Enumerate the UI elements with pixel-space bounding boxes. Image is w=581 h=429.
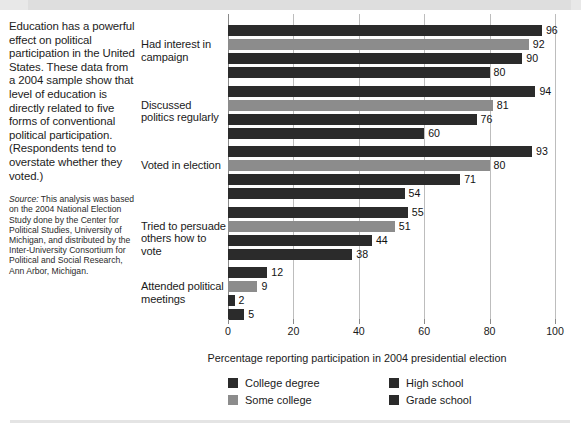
bar-5-2 <box>228 281 257 292</box>
bar-3-4 <box>228 188 405 199</box>
legend-label-2: Some college <box>245 393 312 407</box>
legend-swatch-icon-3 <box>389 378 399 388</box>
chart-legend: College degreeSome collegeHigh schoolGra… <box>141 376 573 410</box>
bar-value-3-4: 54 <box>409 188 421 199</box>
bar-value-4-1: 55 <box>412 207 424 218</box>
bar-4-3 <box>228 235 372 246</box>
bar-2-4 <box>228 128 424 139</box>
category-label-2: Discussed politics regularly <box>141 99 227 124</box>
tick-mark-40 <box>359 319 360 324</box>
category-label-4: Tried to persuade others how to vote <box>141 220 227 258</box>
bar-5-3 <box>228 295 235 306</box>
x-tick-label-20: 20 <box>287 325 299 337</box>
category-label-5: Attended political meetings <box>141 280 227 305</box>
legend-swatch-icon-1 <box>228 378 238 388</box>
x-axis-title: Percentage reporting participation in 20… <box>141 352 573 364</box>
category-label-1: Had interest in campaign <box>141 38 227 63</box>
bar-value-1-2: 92 <box>533 39 545 50</box>
bar-value-3-2: 80 <box>494 160 506 171</box>
bar-value-5-2: 9 <box>261 281 267 292</box>
x-tick-label-80: 80 <box>484 325 496 337</box>
x-tick-label-100: 100 <box>546 325 564 337</box>
bar-value-5-4: 5 <box>248 309 254 320</box>
bar-3-1 <box>228 146 532 157</box>
bar-value-2-3: 76 <box>481 114 493 125</box>
legend-label-3: High school <box>406 376 463 390</box>
x-tick-label-60: 60 <box>418 325 430 337</box>
bar-value-3-3: 71 <box>464 174 476 185</box>
figure-caption: Education has a powerful effect on polit… <box>9 20 137 276</box>
bar-value-1-3: 90 <box>526 53 538 64</box>
x-tick-label-0: 0 <box>225 325 231 337</box>
tick-mark-80 <box>490 319 491 324</box>
caption-body: Education has a powerful effect on polit… <box>9 20 137 183</box>
bar-value-4-4: 38 <box>356 249 368 260</box>
source-lead-label: Source: <box>9 194 39 204</box>
bar-2-2 <box>228 100 493 111</box>
bar-value-3-1: 93 <box>536 146 548 157</box>
bar-3-3 <box>228 174 460 185</box>
bar-value-2-2: 81 <box>497 100 509 111</box>
bar-5-1 <box>228 267 267 278</box>
bar-value-4-2: 51 <box>399 221 411 232</box>
legend-swatch-icon-4 <box>389 395 399 405</box>
legend-swatch-icon-2 <box>228 395 238 405</box>
top-band-inner <box>28 0 571 10</box>
gridline-100 <box>555 14 556 319</box>
bar-value-2-1: 94 <box>539 86 551 97</box>
bar-5-4 <box>228 309 244 320</box>
bar-value-1-4: 80 <box>494 67 506 78</box>
source-text: This analysis was based on the 2004 Nati… <box>9 194 134 275</box>
bar-1-2 <box>228 39 529 50</box>
top-decorative-band <box>0 0 581 10</box>
bottom-divider <box>10 420 570 423</box>
legend-label-1: College degree <box>245 376 320 390</box>
x-tick-label-40: 40 <box>353 325 365 337</box>
bar-value-4-3: 44 <box>376 235 388 246</box>
tick-mark-100 <box>555 319 556 324</box>
bar-4-4 <box>228 249 352 260</box>
bar-1-1 <box>228 25 542 36</box>
bar-3-2 <box>228 160 490 171</box>
bar-2-1 <box>228 86 535 97</box>
bar-value-5-1: 12 <box>271 267 283 278</box>
bar-1-4 <box>228 67 490 78</box>
category-label-3: Voted in election <box>141 159 227 172</box>
bar-1-3 <box>228 53 522 64</box>
bar-value-1-1: 96 <box>546 25 558 36</box>
tick-mark-60 <box>424 319 425 324</box>
bar-value-5-3: 2 <box>239 295 245 306</box>
bar-2-3 <box>228 114 477 125</box>
bar-4-1 <box>228 207 408 218</box>
legend-label-4: Grade school <box>406 393 471 407</box>
tick-mark-20 <box>293 319 294 324</box>
caption-source: Source: This analysis was based on the 2… <box>9 194 137 276</box>
bar-4-2 <box>228 221 395 232</box>
bar-chart-plot-area: Had interest in campaign96929080Discusse… <box>141 14 573 338</box>
tick-mark-0 <box>228 319 229 324</box>
bar-value-2-4: 60 <box>428 128 440 139</box>
